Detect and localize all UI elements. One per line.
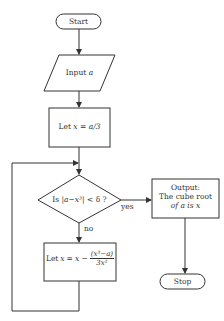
update-numerator: (x³−a) (90, 250, 114, 259)
update-label: Let x = x − (x³−a) 3x² (44, 250, 116, 268)
init-label: Let x = a/3 (49, 122, 110, 131)
init-let: Let (59, 122, 71, 131)
update-x: x (60, 254, 64, 263)
input-label-prefix: Input (66, 68, 86, 77)
input-label-var: a (89, 68, 93, 77)
output-line-3: of a is x (152, 201, 219, 210)
update-denominator: 3x² (96, 259, 107, 267)
input-label: Input a (44, 68, 115, 77)
decision-lt: < (87, 195, 93, 204)
output-line-2: The cube root (152, 192, 219, 201)
update-lhs: x − (75, 254, 88, 263)
output-line-1: Output: (152, 183, 219, 192)
decision-abs: |a−x³| (62, 195, 85, 204)
decision-delta: δ (96, 195, 101, 204)
edge-label-yes: yes (121, 202, 141, 211)
init-x: x (73, 122, 77, 131)
init-eq: = (80, 122, 86, 131)
stop-label: Stop (160, 277, 205, 286)
start-label: Start (56, 17, 101, 26)
loop-back-line (12, 163, 79, 311)
edge-label-no: no (84, 224, 100, 233)
update-let: Let (46, 254, 58, 263)
decision-q: ? (103, 195, 107, 204)
output-label: Output: The cube root of a is x (152, 183, 219, 210)
flowchart-canvas (0, 0, 224, 321)
update-fraction: (x³−a) 3x² (90, 250, 114, 268)
decision-is: Is (52, 195, 59, 204)
decision-label: Is |a−x³| < δ ? (38, 195, 121, 204)
init-expr: a/3 (89, 122, 101, 131)
update-eq: = (67, 254, 73, 263)
